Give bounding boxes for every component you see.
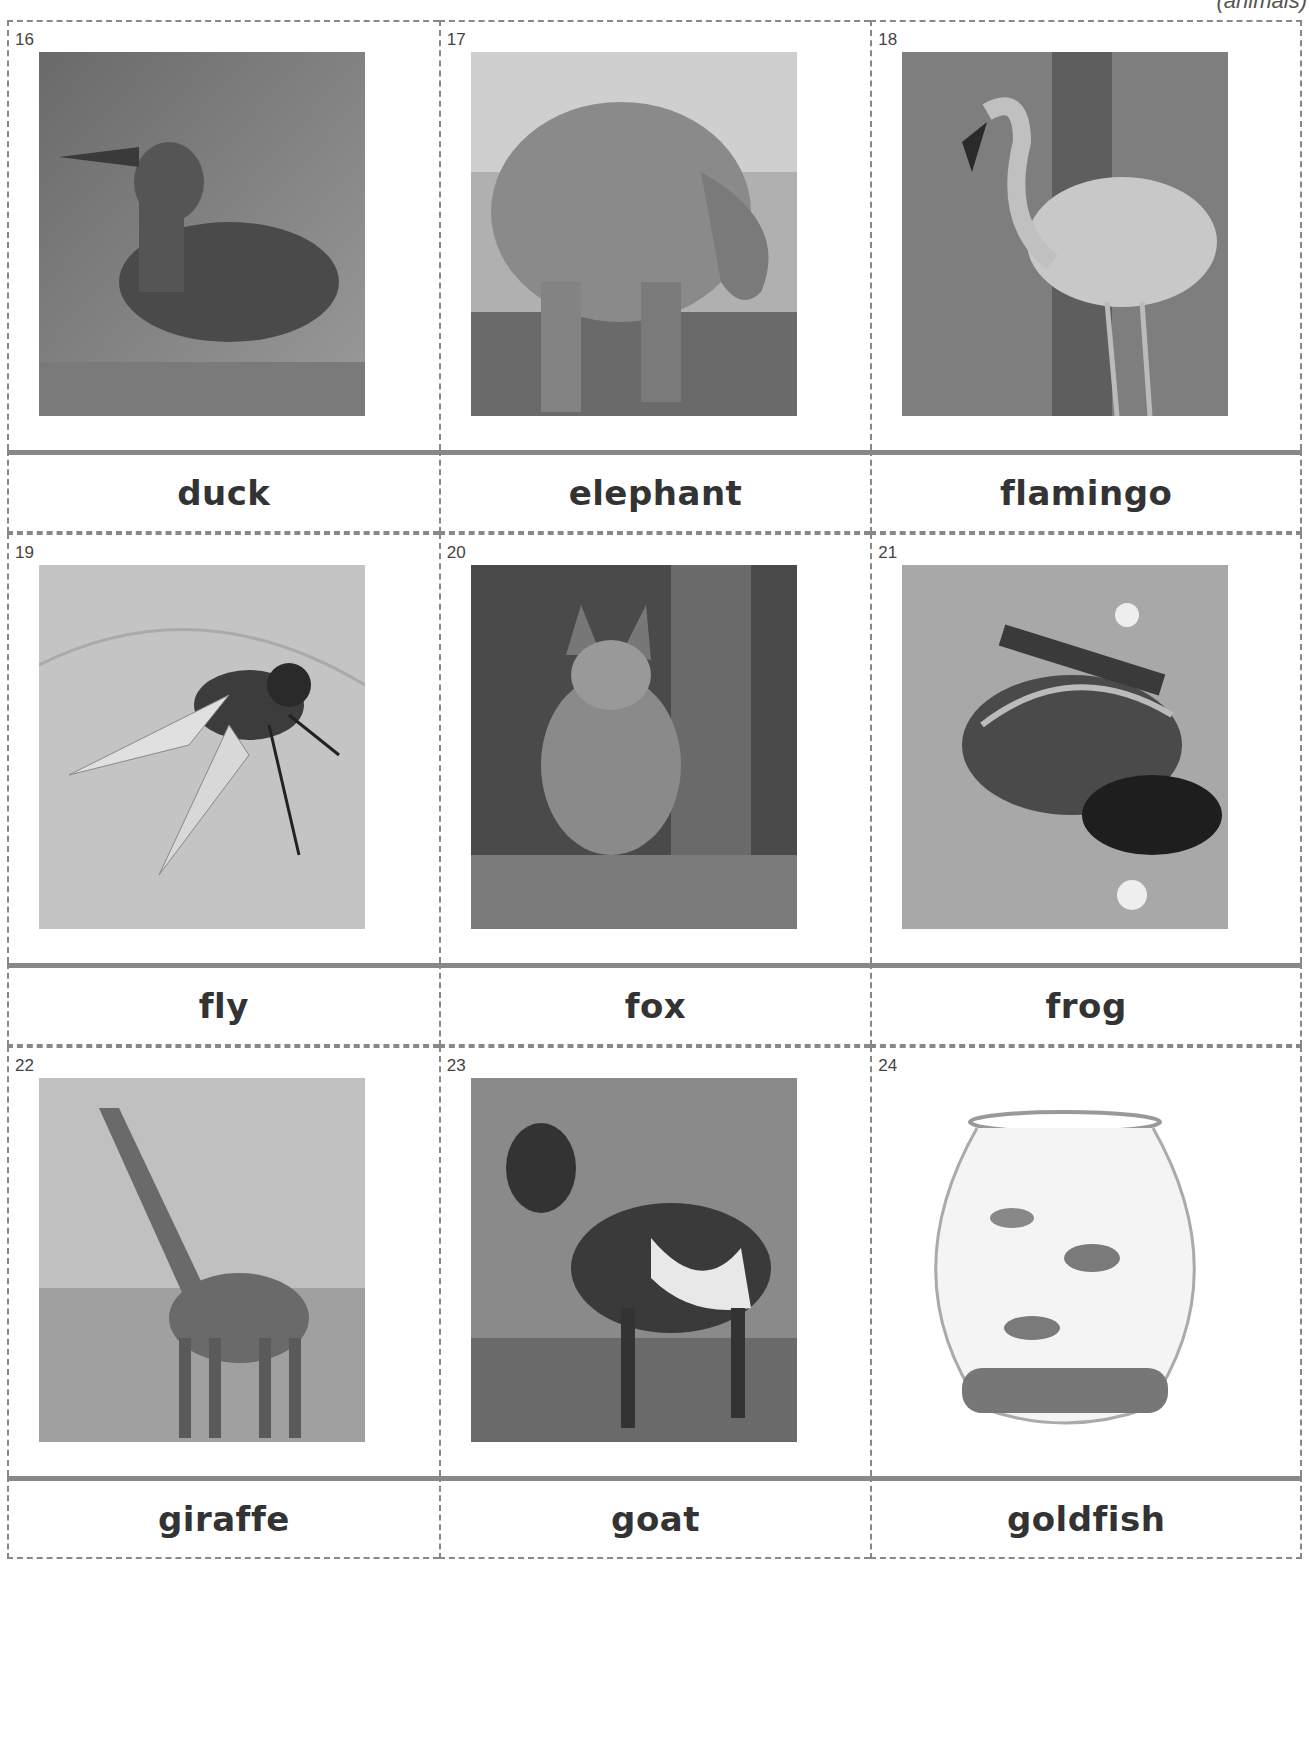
frog-photo (902, 565, 1228, 929)
card-word: flamingo (1000, 473, 1172, 513)
card-photo-fly: 19 (7, 533, 439, 963)
photo-row-3: 22 23 24 (7, 1046, 1302, 1476)
card-photo-frog: 21 (870, 533, 1302, 963)
card-word: goat (611, 1499, 700, 1539)
card-number: 20 (447, 543, 466, 563)
label-row-2: fly fox frog (7, 963, 1302, 1046)
card-photo-goat: 23 (439, 1046, 871, 1476)
card-number: 16 (15, 30, 34, 50)
duck-photo (39, 52, 365, 416)
card-photo-fox: 20 (439, 533, 871, 963)
card-word: goldfish (1007, 1499, 1166, 1539)
label-row-1: duck elephant flamingo (7, 450, 1302, 533)
card-label-fox: fox (439, 963, 871, 1046)
card-number: 24 (878, 1056, 897, 1076)
card-photo-elephant: 17 (439, 20, 871, 450)
flamingo-photo (902, 52, 1228, 416)
card-label-fly: fly (7, 963, 439, 1046)
card-number: 17 (447, 30, 466, 50)
card-number: 19 (15, 543, 34, 563)
card-word: frog (1046, 986, 1127, 1026)
card-number: 21 (878, 543, 897, 563)
card-photo-giraffe: 22 (7, 1046, 439, 1476)
goat-photo (471, 1078, 797, 1442)
card-word: fly (199, 986, 249, 1026)
elephant-photo (471, 52, 797, 416)
card-word: giraffe (158, 1499, 290, 1539)
card-word: elephant (569, 473, 743, 513)
category-tag: (animals) (1217, 0, 1307, 14)
fox-photo (471, 565, 797, 929)
card-number: 23 (447, 1056, 466, 1076)
card-label-frog: frog (870, 963, 1302, 1046)
card-photo-goldfish: 24 (870, 1046, 1302, 1476)
photo-row-1: 16 17 18 (7, 20, 1302, 450)
card-photo-duck: 16 (7, 20, 439, 450)
card-label-giraffe: giraffe (7, 1476, 439, 1559)
photo-row-2: 19 20 21 (7, 533, 1302, 963)
card-label-duck: duck (7, 450, 439, 533)
card-word: duck (177, 473, 270, 513)
card-number: 18 (878, 30, 897, 50)
flashcard-sheet: 16 17 18 duck elephant flamingo 19 (7, 20, 1302, 1559)
label-row-3: giraffe goat goldfish (7, 1476, 1302, 1559)
giraffe-photo (39, 1078, 365, 1442)
card-label-flamingo: flamingo (870, 450, 1302, 533)
fly-photo (39, 565, 365, 929)
card-photo-flamingo: 18 (870, 20, 1302, 450)
card-label-goat: goat (439, 1476, 871, 1559)
card-word: fox (625, 986, 687, 1026)
goldfish-photo (902, 1078, 1228, 1442)
card-number: 22 (15, 1056, 34, 1076)
card-label-goldfish: goldfish (870, 1476, 1302, 1559)
card-label-elephant: elephant (439, 450, 871, 533)
